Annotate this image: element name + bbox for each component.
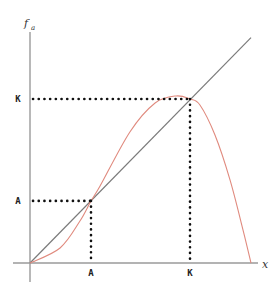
diagram-canvas: f a x AAKK bbox=[0, 0, 280, 290]
y-axis-title: f bbox=[23, 17, 30, 30]
x-tick-label-a: A bbox=[88, 268, 94, 278]
x-tick-label-k: K bbox=[187, 268, 193, 278]
fa-curve bbox=[30, 96, 251, 263]
y-axis-title-subscript: a bbox=[31, 24, 35, 32]
x-axis-title: x bbox=[262, 258, 269, 271]
y-tick-label-k: K bbox=[15, 94, 21, 104]
identity-line bbox=[30, 38, 251, 263]
y-tick-label-a: A bbox=[15, 196, 21, 206]
